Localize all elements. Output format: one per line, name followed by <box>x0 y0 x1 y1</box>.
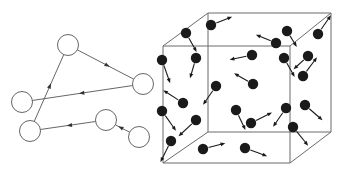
velocity-vector-line <box>189 38 195 49</box>
velocity-vector-arrowhead <box>267 112 272 116</box>
particle-dot <box>240 143 250 153</box>
particle-dot <box>198 144 208 154</box>
particle-dot <box>206 20 216 30</box>
particle <box>234 73 258 89</box>
velocity-vector-arrowhead <box>291 72 295 77</box>
particle-dot <box>157 55 167 65</box>
figure-root <box>0 0 344 174</box>
velocity-vector-line <box>191 63 194 75</box>
particle <box>157 55 171 83</box>
velocity-vector-line <box>181 124 192 134</box>
particle <box>246 112 272 128</box>
particle-dot <box>288 122 298 132</box>
velocity-vector-line <box>209 144 222 148</box>
graph-edge-arrowhead <box>47 83 51 89</box>
particle-dot <box>247 50 257 60</box>
velocity-vector-arrowhead <box>190 73 194 78</box>
velocity-vector-line <box>297 131 306 143</box>
velocity-vector-arrowhead <box>227 17 232 21</box>
velocity-vector-line <box>290 36 295 44</box>
particle-dot <box>303 51 313 61</box>
velocity-vector-line <box>309 109 320 118</box>
graph-node[interactable] <box>96 110 117 131</box>
particle <box>179 115 202 137</box>
velocity-vector-arrowhead <box>220 143 225 147</box>
velocity-vector-arrowhead <box>167 78 171 83</box>
graph-edge-arrowhead <box>79 91 85 95</box>
velocity-vector-line <box>275 113 283 124</box>
particle <box>157 106 176 131</box>
velocity-vector-line <box>296 60 304 67</box>
velocity-vector-arrowhead <box>163 90 168 94</box>
particle-dot <box>231 105 241 115</box>
particle <box>198 143 225 155</box>
particle-dot <box>313 29 323 39</box>
graph-node[interactable] <box>12 92 33 113</box>
graph-edge-arrowhead <box>104 62 110 66</box>
particle <box>313 15 331 39</box>
particle <box>273 103 291 127</box>
particle-dot <box>279 53 289 63</box>
particle <box>206 17 232 30</box>
graph-node[interactable] <box>20 121 41 142</box>
particle-dot <box>166 136 176 146</box>
velocity-vector-line <box>205 91 213 102</box>
velocity-vector-line <box>250 150 264 155</box>
velocity-vector-arrowhead <box>242 125 246 130</box>
velocity-vector-arrowhead <box>273 122 277 127</box>
velocity-vector-line <box>216 18 229 23</box>
particle <box>163 90 188 108</box>
velocity-vector-line <box>306 60 315 71</box>
graph-node[interactable] <box>58 35 79 56</box>
particle <box>240 143 267 157</box>
velocity-vector-line <box>259 36 271 41</box>
velocity-vector-arrowhead <box>256 35 261 39</box>
graph-edge-arrowhead <box>67 123 73 127</box>
velocity-vector-arrowhead <box>262 153 267 157</box>
particle-dot <box>271 38 281 48</box>
particle <box>203 81 221 105</box>
particle <box>282 26 297 47</box>
particle <box>181 28 197 52</box>
velocity-vector-arrowhead <box>293 42 297 47</box>
figure-canvas <box>0 0 344 174</box>
particle-dot <box>178 98 188 108</box>
particle <box>279 53 295 77</box>
particle-dot <box>191 115 201 125</box>
particle-dot <box>191 53 201 63</box>
velocity-vector-arrowhead <box>234 73 239 77</box>
graph-node[interactable] <box>129 127 150 148</box>
particle-dot <box>300 100 310 110</box>
particle-dot <box>211 81 221 91</box>
particle <box>230 50 258 61</box>
velocity-vector-arrowhead <box>203 100 207 105</box>
velocity-vector-arrowhead <box>160 157 164 162</box>
particle-dot <box>181 28 191 38</box>
particle <box>231 105 246 130</box>
velocity-vector-line <box>233 56 246 59</box>
directed-graph-panel <box>12 35 154 148</box>
velocity-vector-line <box>165 116 174 128</box>
particle-dot <box>298 71 308 81</box>
graph-node[interactable] <box>133 74 154 95</box>
velocity-vector-line <box>256 114 269 120</box>
velocity-vector-arrowhead <box>230 57 235 61</box>
cube-edge-connect-top-right <box>290 13 331 46</box>
velocity-vector-arrowhead <box>193 47 197 52</box>
particle-dot <box>246 118 256 128</box>
velocity-vector-line <box>238 115 244 127</box>
particle <box>300 100 323 120</box>
particle <box>190 53 202 78</box>
velocity-vector-line <box>164 65 169 80</box>
particle-dot <box>248 79 258 89</box>
particle-dot <box>157 106 167 116</box>
particle-cube-panel <box>157 13 331 163</box>
cube-edge-connect-bottom-right <box>290 132 331 163</box>
velocity-vector-line <box>166 92 178 100</box>
velocity-vector-line <box>237 75 248 81</box>
particle-dot <box>281 103 291 113</box>
graph-edge-arrowhead <box>118 126 124 130</box>
particle <box>288 122 308 146</box>
particle-dot <box>282 26 292 36</box>
